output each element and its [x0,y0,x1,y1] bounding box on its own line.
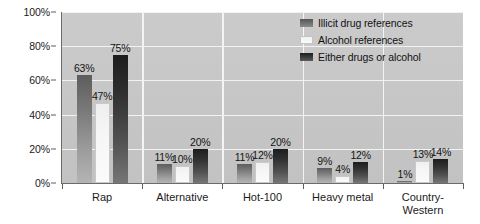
bar: 20% [273,149,288,183]
y-tick-mark [51,12,56,13]
legend-swatch-icon-illicit [300,19,313,27]
y-axis: 0%20%40%60%80%100% [0,12,56,183]
bar-value-label: 12% [252,149,272,161]
bar-group: 11%10%20% [142,12,222,183]
bar: 63% [77,75,92,183]
y-tick-label: 80% [29,40,50,52]
legend-item-either-drugs-or-alcohol: Either drugs or alcohol [300,48,468,65]
bar-value-label: 63% [74,62,94,74]
bar-value-label: 4% [335,163,350,175]
bar: 11% [157,164,172,183]
bar-value-label: 14% [431,146,451,158]
bar: 14% [433,159,448,183]
y-tick-mark [51,46,56,47]
bar: 12% [353,162,368,183]
y-tick-mark [51,80,56,81]
y-tick-mark [51,114,56,115]
y-tick-label: 60% [29,74,50,86]
bar-value-label: 47% [92,90,112,102]
bar-value-label: 12% [350,149,370,161]
y-tick-mark [51,183,56,184]
bar: 11% [237,164,252,183]
y-tick-label: 100% [24,6,50,18]
bar: 10% [175,166,190,183]
legend-swatch-icon-alcohol [300,36,313,44]
x-category-label: Alternative [156,191,208,204]
bar: 4% [335,176,350,183]
bar-value-label: 1% [398,168,413,180]
bar: 13% [415,161,430,183]
bar-value-label: 10% [172,153,192,165]
bar: 9% [317,168,332,183]
legend-item-illicit-drug-references: Illicit drug references [300,14,468,31]
legend-swatch-icon-either [300,53,313,61]
bar-value-label: 9% [317,155,332,167]
legend-label-either: Either drugs or alcohol [318,51,421,63]
y-tick-mark [51,148,56,149]
bar: 47% [95,103,110,183]
x-tick-mark [142,184,143,189]
bar-value-label: 20% [270,136,290,148]
x-tick-mark [303,184,304,189]
bar: 12% [255,162,270,183]
x-tick-mark [62,184,63,189]
x-category-label: Rap [92,191,112,204]
x-category-label: Country- Western [402,191,444,216]
legend-item-alcohol-references: Alcohol references [300,31,468,48]
y-tick-label: 20% [29,143,50,155]
legend-label-illicit: Illicit drug references [318,17,413,29]
x-axis-line [61,183,464,184]
chart-legend: Illicit drug references Alcohol referenc… [300,14,468,65]
x-tick-mark [383,184,384,189]
bar-chart: 0%20%40%60%80%100% 63%47%75%11%10%20%11%… [0,0,480,224]
y-tick-label: 0% [35,177,50,189]
y-tick-label: 40% [29,109,50,121]
bar: 75% [113,55,128,183]
bar-value-label: 75% [110,42,130,54]
bar: 20% [193,149,208,183]
bar-group: 11%12%20% [222,12,302,183]
x-category-label: Heavy metal [312,191,373,204]
x-tick-mark [463,184,464,189]
x-category-label: Hot-100 [243,191,282,204]
bar-value-label: 20% [190,136,210,148]
x-tick-mark [222,184,223,189]
legend-label-alcohol: Alcohol references [318,34,403,46]
bar-group: 63%47%75% [62,12,142,183]
